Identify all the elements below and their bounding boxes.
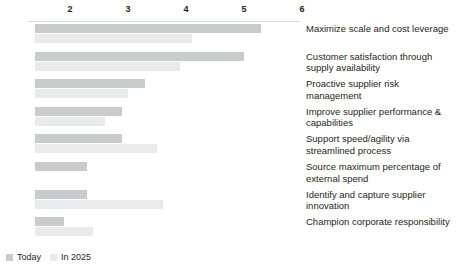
- bar-in-2025[interactable]: [35, 144, 157, 153]
- bar-in-2025[interactable]: [35, 34, 192, 43]
- category-label: Identify and capture supplier innovation: [306, 189, 456, 212]
- bar-row: [0, 107, 300, 131]
- bar-today[interactable]: [35, 162, 87, 171]
- category-label: Maximize scale and cost leverage: [306, 23, 456, 35]
- bar-in-2025[interactable]: [35, 200, 163, 209]
- horizontal-bar-chart: 23456 Maximize scale and cost leverageCu…: [0, 0, 456, 270]
- bar-today[interactable]: [35, 79, 145, 88]
- bar-row: [0, 52, 300, 76]
- category-label-column: Maximize scale and cost leverageCustomer…: [306, 24, 456, 246]
- category-label: Champion corporate responsibility: [306, 216, 456, 228]
- x-axis: 23456: [0, 0, 300, 22]
- x-tick-3: 3: [125, 4, 130, 15]
- legend-label-today: Today: [17, 252, 41, 262]
- category-label: Support speed/agility via streamlined pr…: [306, 133, 456, 156]
- bar-today[interactable]: [35, 52, 244, 61]
- x-tick-6: 6: [299, 4, 304, 15]
- legend-item-today[interactable]: Today: [6, 252, 41, 262]
- bar-in-2025[interactable]: [35, 117, 105, 126]
- category-label: Source maximum percentage of external sp…: [306, 161, 456, 184]
- bar-in-2025[interactable]: [35, 227, 93, 236]
- x-tick-2: 2: [67, 4, 72, 15]
- x-axis-rule: [28, 21, 300, 22]
- bar-today[interactable]: [35, 134, 122, 143]
- bar-today[interactable]: [35, 107, 122, 116]
- bar-today[interactable]: [35, 217, 64, 226]
- bar-row: [0, 190, 300, 214]
- bar-row: [0, 217, 300, 241]
- bar-row: [0, 162, 300, 186]
- bar-in-2025[interactable]: [35, 89, 128, 98]
- plot-area: [0, 24, 300, 246]
- legend-item-in-2025[interactable]: In 2025: [50, 252, 91, 262]
- category-label: Proactive supplier risk management: [306, 78, 456, 101]
- bar-today[interactable]: [35, 190, 87, 199]
- today-swatch: [6, 254, 13, 261]
- category-label: Improve supplier performance & capabilit…: [306, 106, 456, 129]
- bar-row: [0, 134, 300, 158]
- category-label: Customer satisfaction through supply ava…: [306, 51, 456, 74]
- bar-in-2025[interactable]: [35, 62, 180, 71]
- bar-row: [0, 79, 300, 103]
- legend: Today In 2025: [6, 252, 91, 262]
- x-tick-4: 4: [183, 4, 188, 15]
- legend-label-in-2025: In 2025: [61, 252, 91, 262]
- x-tick-5: 5: [241, 4, 246, 15]
- bar-today[interactable]: [35, 24, 261, 33]
- bar-row: [0, 24, 300, 48]
- in-2025-swatch: [50, 254, 57, 261]
